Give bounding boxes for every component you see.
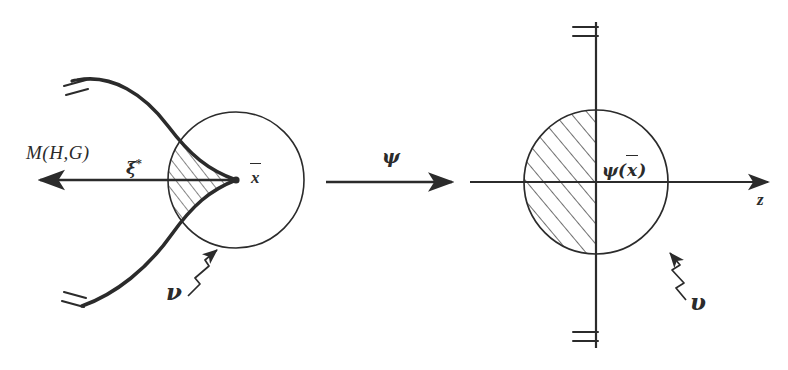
z-axis-label: z [757,190,764,210]
curve-upper-branch [78,79,236,180]
figure-canvas: M(H,G) ξ* x ν ψ ψ(x) z υ [0,0,788,370]
u-label-leader [670,253,686,300]
image-point-label: ψ(x) [602,160,646,180]
math-diagram-svg [0,0,788,370]
curve-upper-tail [72,80,78,81]
curve-lower-branch [82,180,236,306]
point-label-xbar: x [250,168,261,188]
xbar-overline [250,163,261,164]
neighborhood-label-v: ν [166,278,182,305]
map-label-psi: ψ [382,145,400,167]
tangent-vector-label: ξ* [126,157,142,178]
xbar-glyph: x [251,168,260,187]
psi-arg-overline [626,155,638,156]
curve-label-mhg: M(H,G) [26,142,90,164]
cusp-point-marker [232,176,239,183]
break-mark-upper [64,80,88,95]
xi-glyph: ξ [126,158,136,178]
vertical-break-mark-bottom [573,332,598,341]
psi-glyph: ψ( [602,160,626,180]
neighborhood-label-u: υ [690,288,706,315]
psi-close-paren: ) [638,160,646,180]
v-label-leader [188,250,217,296]
xi-superscript: * [136,157,142,170]
vertical-break-mark-top [573,27,598,36]
psi-arg-glyph: x [627,160,637,180]
